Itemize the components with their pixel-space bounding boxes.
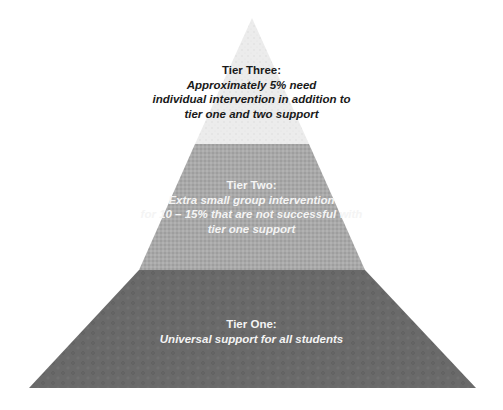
tier-two-description: Extra small group intervention for 10 – … bbox=[0, 193, 503, 237]
tier-three-description: Approximately 5% need individual interve… bbox=[0, 78, 503, 122]
tier-two-title: Tier Two: bbox=[0, 178, 503, 193]
tier-one-label: Tier One: Universal support for all stud… bbox=[0, 317, 503, 346]
tier-three-label: Tier Three: Approximately 5% need indivi… bbox=[0, 63, 503, 121]
tier-two-label: Tier Two: Extra small group intervention… bbox=[0, 178, 503, 236]
tier-three-title: Tier Three: bbox=[0, 63, 503, 78]
tier-one-title: Tier One: bbox=[0, 317, 503, 332]
tier-one-description: Universal support for all students bbox=[0, 332, 503, 347]
